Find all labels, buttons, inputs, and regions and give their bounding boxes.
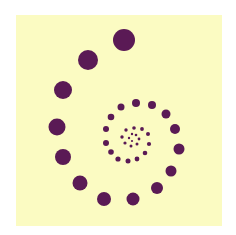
spiral-dot <box>147 142 151 146</box>
spiral-dot <box>140 127 144 131</box>
spiral-dot <box>54 81 72 99</box>
spiral-dot <box>113 29 135 51</box>
spiral-dot <box>127 193 140 206</box>
spiral-dot <box>162 110 171 119</box>
spiral-dot <box>124 128 127 131</box>
spiral-dot <box>135 157 140 162</box>
spiral-dot <box>103 126 109 132</box>
spiral-dot <box>126 159 131 164</box>
spiral-dot <box>123 141 126 144</box>
spiral-dot <box>170 124 180 134</box>
spiral-dot <box>146 132 150 136</box>
spiral-dot <box>103 140 109 146</box>
spiral-dot <box>132 126 136 130</box>
spiral-dot <box>148 101 156 109</box>
spiral-dot <box>131 140 133 142</box>
spiral-dot <box>118 104 125 111</box>
spiral-dot <box>151 182 163 194</box>
spiral-dot <box>97 192 111 206</box>
spiral-dot <box>55 149 71 165</box>
spiral-dot <box>136 143 139 146</box>
spiral-dot <box>138 138 141 141</box>
spiral-dot <box>135 134 138 137</box>
spiral-dot <box>174 144 185 155</box>
spiral-dot <box>166 166 177 177</box>
spiral-dot <box>131 133 133 135</box>
spiral-dot <box>49 119 66 136</box>
spiral-dot <box>115 156 120 161</box>
spiral-dot <box>78 50 98 70</box>
spiral-dot <box>108 114 115 121</box>
spiral-dot <box>130 145 133 148</box>
spiral-dot <box>120 135 123 138</box>
spiral-dot <box>73 176 88 191</box>
spiral-dot <box>128 137 130 139</box>
spiral-illustration <box>0 0 236 235</box>
spiral-dot <box>143 151 148 156</box>
spiral-dot <box>108 149 114 155</box>
spiral-dot <box>132 99 140 107</box>
